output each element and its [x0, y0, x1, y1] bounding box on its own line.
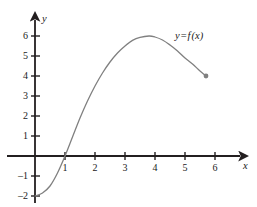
- curve-label-y-equals-f-of-x: y=f(x): [175, 31, 203, 42]
- x-tick-label-6: 6: [213, 163, 218, 173]
- curve-endpoint-dot: [204, 74, 209, 79]
- plot-canvas: [0, 0, 257, 207]
- x-tick-label-2: 2: [93, 163, 98, 173]
- y-axis-label: y: [42, 14, 47, 25]
- function-graph-figure: 1 2 3 4 5 6 6 5 4 3 2 1 –1 –2 y x y=f(x): [0, 0, 257, 207]
- y-tick-label-5: 5: [23, 51, 28, 61]
- y-tick-label-minus-1: –1: [18, 171, 28, 181]
- x-tick-label-5: 5: [183, 163, 188, 173]
- curve-label-argument: (x): [191, 30, 204, 41]
- y-tick-label-4: 4: [23, 71, 28, 81]
- x-tick-label-3: 3: [123, 163, 128, 173]
- x-tick-label-1: 1: [63, 163, 68, 173]
- x-axis-label: x: [243, 161, 248, 172]
- x-tick-label-4: 4: [153, 163, 158, 173]
- function-curve: [35, 36, 206, 196]
- y-tick-label-2: 2: [23, 111, 28, 121]
- y-tick-label-1: 1: [23, 131, 28, 141]
- y-tick-label-minus-2: –2: [18, 191, 28, 201]
- y-tick-label-3: 3: [23, 91, 28, 101]
- y-tick-label-6: 6: [23, 31, 28, 41]
- curve-label-equals: =: [180, 30, 188, 41]
- curve-label-y: y: [175, 30, 180, 41]
